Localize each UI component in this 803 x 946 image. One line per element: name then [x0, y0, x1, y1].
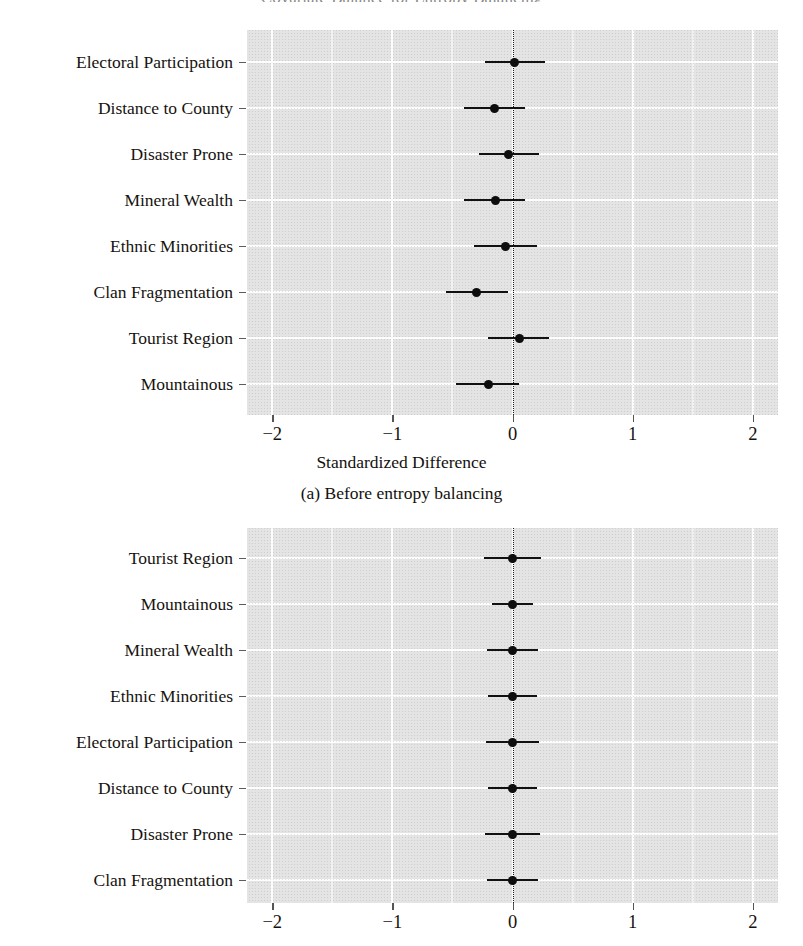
- vertical-gridline: [391, 528, 393, 903]
- y-axis-tick: [239, 788, 246, 789]
- x-axis-tick-label: 1: [603, 912, 663, 933]
- point-estimate-dot: [508, 600, 517, 609]
- y-axis-label: Distance to County: [3, 779, 233, 797]
- x-axis-tick: [513, 415, 514, 422]
- y-axis-tick: [239, 338, 246, 339]
- covariate-balance-figure: Covariate Balance for Entropy Balancing …: [0, 0, 803, 946]
- x-axis-tick-label: 0: [483, 424, 543, 445]
- point-estimate-dot: [510, 58, 519, 67]
- panel-before-balancing: Electoral ParticipationDistance to Count…: [0, 0, 803, 510]
- vertical-gridline-minor: [451, 30, 453, 415]
- x-axis-tick: [633, 903, 634, 910]
- y-axis-label: Ethnic Minorities: [3, 237, 233, 255]
- x-axis-tick-label: 2: [723, 424, 783, 445]
- y-axis-label: Clan Fragmentation: [3, 871, 233, 889]
- zero-reference-line: [513, 528, 514, 903]
- y-axis-tick: [239, 154, 246, 155]
- x-axis-tick: [392, 415, 393, 422]
- y-axis-tick: [239, 200, 246, 201]
- y-axis-label: Clan Fragmentation: [3, 283, 233, 301]
- plot-area-panel-b: [247, 528, 778, 903]
- vertical-gridline-minor: [331, 30, 333, 415]
- point-estimate-dot: [508, 784, 517, 793]
- y-axis-label: Electoral Participation: [3, 53, 233, 71]
- point-estimate-dot: [508, 554, 517, 563]
- vertical-gridline-minor: [451, 528, 453, 903]
- x-axis-tick: [272, 903, 273, 910]
- point-estimate-dot: [508, 830, 517, 839]
- y-axis-label: Electoral Participation: [3, 733, 233, 751]
- y-axis-tick: [239, 292, 246, 293]
- y-axis-tick: [239, 742, 246, 743]
- x-axis-title-panel-a: Standardized Difference: [0, 452, 803, 473]
- y-axis-tick: [239, 696, 246, 697]
- point-estimate-dot: [515, 334, 524, 343]
- y-axis-label: Distance to County: [3, 99, 233, 117]
- y-axis-label: Disaster Prone: [3, 825, 233, 843]
- vertical-gridline: [632, 30, 634, 415]
- x-axis-tick: [753, 415, 754, 422]
- x-axis-tick: [272, 415, 273, 422]
- y-axis-tick: [239, 558, 246, 559]
- vertical-gridline: [752, 528, 754, 903]
- vertical-gridline: [752, 30, 754, 415]
- y-axis-tick: [239, 834, 246, 835]
- point-estimate-dot: [508, 738, 517, 747]
- x-axis-tick-label: −2: [242, 912, 302, 933]
- vertical-gridline: [632, 528, 634, 903]
- zero-reference-line: [513, 30, 514, 415]
- x-axis-tick-label: 1: [603, 424, 663, 445]
- point-estimate-dot: [501, 242, 510, 251]
- vertical-gridline: [271, 30, 273, 415]
- x-axis-tick-label: −2: [242, 424, 302, 445]
- x-axis-tick: [392, 903, 393, 910]
- y-axis-tick: [239, 108, 246, 109]
- y-axis-tick: [239, 604, 246, 605]
- y-axis-label: Tourist Region: [3, 549, 233, 567]
- point-estimate-dot: [508, 692, 517, 701]
- x-axis-tick-label: 2: [723, 912, 783, 933]
- y-axis-label: Mountainous: [3, 375, 233, 393]
- vertical-gridline-minor: [572, 528, 574, 903]
- point-estimate-dot: [508, 646, 517, 655]
- point-estimate-dot: [490, 104, 499, 113]
- point-estimate-dot: [472, 288, 481, 297]
- x-axis-tick-label: 0: [483, 912, 543, 933]
- y-axis-label: Disaster Prone: [3, 145, 233, 163]
- x-axis-tick: [513, 903, 514, 910]
- y-axis-tick: [239, 246, 246, 247]
- y-axis-tick: [239, 880, 246, 881]
- panel-after-balancing: Tourist RegionMountainousMineral WealthE…: [0, 510, 803, 946]
- vertical-gridline-minor: [331, 528, 333, 903]
- vertical-gridline: [271, 528, 273, 903]
- vertical-gridline-minor: [572, 30, 574, 415]
- plot-area-panel-a: [247, 30, 778, 415]
- y-axis-tick: [239, 384, 246, 385]
- point-estimate-dot: [491, 196, 500, 205]
- x-axis-tick-label: −1: [362, 424, 422, 445]
- point-estimate-dot: [508, 876, 517, 885]
- x-axis-tick: [753, 903, 754, 910]
- subcaption-panel-a: (a) Before entropy balancing: [0, 483, 803, 504]
- vertical-gridline-minor: [692, 528, 694, 903]
- y-axis-label: Ethnic Minorities: [3, 687, 233, 705]
- vertical-gridline-minor: [692, 30, 694, 415]
- y-axis-tick: [239, 650, 246, 651]
- y-axis-label: Mountainous: [3, 595, 233, 613]
- y-axis-label: Mineral Wealth: [3, 641, 233, 659]
- x-axis-tick: [633, 415, 634, 422]
- y-axis-tick: [239, 62, 246, 63]
- vertical-gridline: [391, 30, 393, 415]
- y-axis-label: Mineral Wealth: [3, 191, 233, 209]
- x-axis-tick-label: −1: [362, 912, 422, 933]
- point-estimate-dot: [504, 150, 513, 159]
- y-axis-label: Tourist Region: [3, 329, 233, 347]
- point-estimate-dot: [484, 380, 493, 389]
